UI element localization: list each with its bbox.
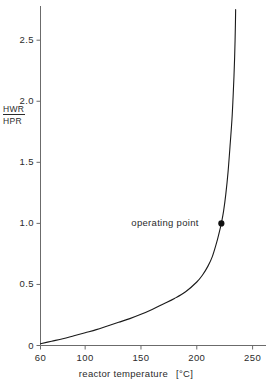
operating-point-marker: [218, 220, 224, 226]
y-tick-label: 2.0: [8, 95, 34, 106]
axis-lines: [41, 6, 267, 346]
plot-area: [0, 0, 272, 386]
x-tick-label: 200: [182, 352, 212, 363]
x-axis-title: reactor temperature[°C]: [0, 368, 272, 379]
y-tick-label: 2.5: [8, 34, 34, 45]
x-tick-label: 60: [26, 352, 56, 363]
x-axis-ticks: [41, 346, 253, 350]
x-tick-label: 250: [238, 352, 268, 363]
y-tick-label: 0.5: [8, 278, 34, 289]
y-tick-label: 1.0: [8, 217, 34, 228]
y-tick-label: 0: [8, 340, 34, 351]
y-axis-label: HWR HPR: [3, 104, 33, 126]
x-axis-title-text: reactor temperature: [79, 368, 168, 379]
series-line-hwr-hpr: [41, 10, 236, 344]
chart-container: HWR HPR 00.51.01.52.02.5 60100150200250 …: [0, 0, 272, 386]
operating-point-label: operating point: [131, 217, 198, 228]
x-axis-unit: [°C]: [176, 368, 193, 379]
x-tick-label: 150: [126, 352, 156, 363]
y-tick-label: 1.5: [8, 156, 34, 167]
x-tick-label: 100: [70, 352, 100, 363]
y-axis-label-denominator: HPR: [3, 115, 25, 126]
y-axis-ticks: [37, 40, 41, 345]
